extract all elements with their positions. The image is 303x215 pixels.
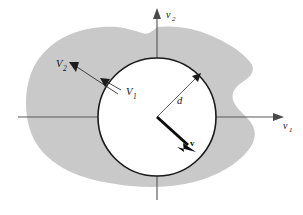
arrow-up-icon [153, 8, 161, 19]
horizontal-axis-label-subscript: 1 [289, 126, 293, 134]
vertical-axis-label-subscript: 2 [172, 15, 176, 23]
vertical-axis-label: v [166, 9, 171, 20]
outer-region-label-subscript: 2 [63, 64, 67, 73]
radius-label: d [177, 95, 183, 106]
inner-region-label-subscript: 1 [133, 92, 137, 101]
horizontal-axis-label: v [283, 120, 288, 131]
velocity-vector-label: v [190, 138, 195, 148]
velocity-space-diagram: v 2 v 1 V 2 V 1 d v [0, 0, 303, 215]
figure-root: v 2 v 1 V 2 V 1 d v [0, 0, 303, 215]
